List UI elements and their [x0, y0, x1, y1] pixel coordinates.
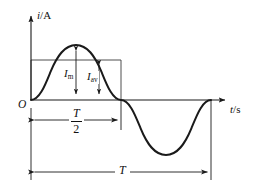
half-period-label: T 2 — [69, 107, 84, 135]
half-period-numerator: T — [71, 107, 82, 121]
peak-amplitude-subscript: m — [68, 73, 74, 81]
x-axis-label: t/s — [230, 104, 240, 115]
figure-root: i/A t/s O Im Iav T 2 T — [0, 0, 259, 192]
y-axis-unit: A — [43, 9, 51, 21]
half-period-denominator: 2 — [71, 122, 82, 136]
y-axis-label: i/A — [37, 10, 51, 21]
average-amplitude-label: Iav — [86, 71, 99, 84]
period-label: T — [115, 164, 130, 176]
half-period-fraction: T 2 — [71, 107, 82, 135]
origin-label: O — [18, 99, 26, 111]
period-symbol: T — [119, 163, 126, 177]
peak-amplitude-label: Im — [63, 68, 74, 81]
x-axis-unit: s — [236, 103, 240, 115]
average-amplitude-subscript: av — [91, 76, 98, 84]
